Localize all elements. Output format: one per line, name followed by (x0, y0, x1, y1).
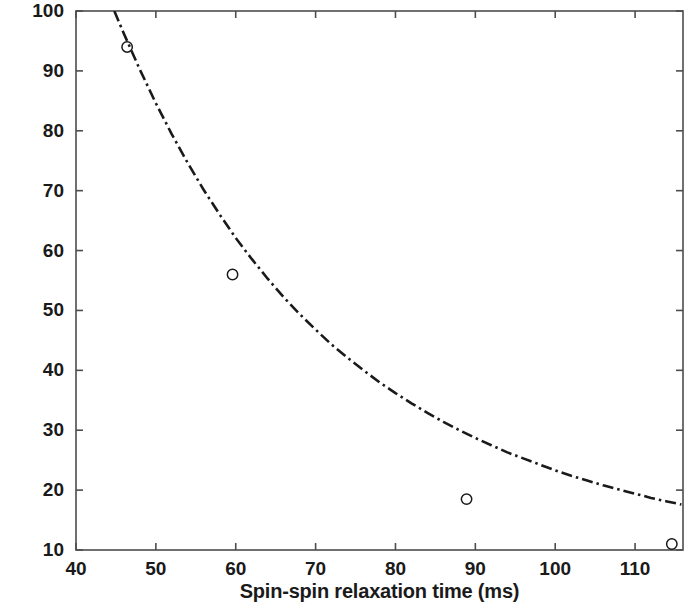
x-axis-label: Spin-spin relaxation time (ms) (76, 580, 683, 603)
x-axis-tick-label: 80 (385, 558, 406, 580)
y-axis-tick-label: 10 (0, 539, 64, 561)
data-point-marker (122, 42, 132, 52)
data-point-marker (227, 269, 237, 279)
y-axis-tick-label: 90 (0, 60, 64, 82)
data-point-marker (461, 494, 471, 504)
x-axis-tick-label: 70 (305, 558, 326, 580)
x-axis-tick-label: 90 (465, 558, 486, 580)
x-axis-tick-label: 110 (620, 558, 651, 580)
y-axis-tick-label: 50 (0, 299, 64, 321)
y-axis-tick-label: 40 (0, 359, 64, 381)
data-layer (114, 11, 681, 549)
y-axis-tick-label: 30 (0, 419, 64, 441)
y-axis-tick-label: 80 (0, 120, 64, 142)
x-axis-tick-label: 50 (145, 558, 166, 580)
viscosity-vs-relaxation-time-chart: Viscosity (mPa s) Spin-spin relaxation t… (0, 0, 692, 615)
x-axis-tick-label: 40 (65, 558, 86, 580)
y-axis-tick-label: 70 (0, 180, 64, 202)
axis-frame (76, 11, 683, 550)
data-point-marker (667, 539, 677, 549)
fitted-curve-line (114, 11, 681, 504)
y-axis-tick-label: 60 (0, 240, 64, 262)
y-axis-tick-label: 100 (0, 0, 64, 22)
chart-plot-area (0, 0, 692, 615)
x-axis-tick-label: 60 (225, 558, 246, 580)
y-axis-tick-label: 20 (0, 479, 64, 501)
x-axis-tick-label: 100 (539, 558, 571, 580)
